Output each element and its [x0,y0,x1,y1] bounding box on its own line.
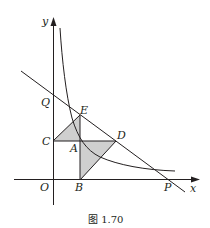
point-c-label: C [42,135,51,148]
point-e-label: E [79,104,88,117]
figure-diagram: y x O Q E C A D B P 图 1.70 [0,0,210,228]
origin-label: O [40,181,49,194]
figure-caption: 图 1.70 [88,214,123,225]
point-b-label: B [74,181,83,194]
y-axis-label: y [41,15,49,28]
line-qp [21,71,185,192]
point-p-label: P [163,181,172,194]
point-d-label: D [116,129,126,142]
y-axis-arrow-icon [51,17,57,26]
point-q-label: Q [41,96,50,109]
point-a-label: A [69,142,78,155]
x-axis-label: x [190,182,197,195]
